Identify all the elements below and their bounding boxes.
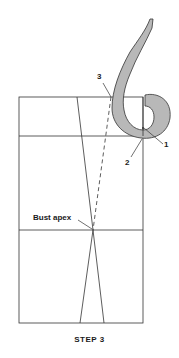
leader-2 xyxy=(131,139,142,157)
dart-leg-right xyxy=(93,230,104,323)
dashed-guide-line xyxy=(93,97,111,230)
step-caption: STEP 3 xyxy=(0,335,179,344)
label-point-2: 2 xyxy=(125,159,129,167)
leader-bust-apex xyxy=(78,220,92,229)
label-bust-apex: Bust apex xyxy=(33,214,71,222)
pattern-diagram xyxy=(0,0,179,358)
dart-leg-upper xyxy=(77,97,93,230)
dart-leg-left xyxy=(80,230,93,323)
point-1-marker xyxy=(142,127,144,129)
french-curve-icon xyxy=(112,19,170,138)
leader-3 xyxy=(103,83,111,97)
label-point-1: 1 xyxy=(164,141,168,149)
label-point-3: 3 xyxy=(97,73,101,81)
